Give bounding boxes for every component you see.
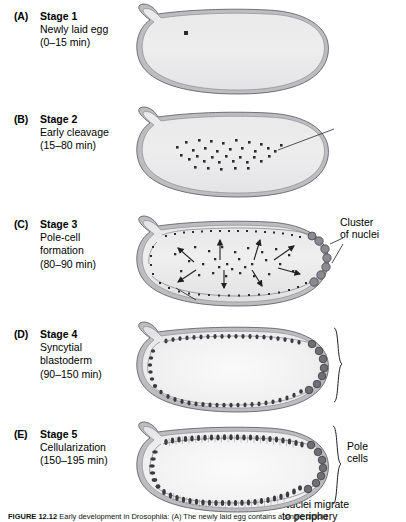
embryo-diagram-d [128, 318, 343, 418]
embryo-diagram-b [128, 103, 343, 208]
panel-letter-a: (A) [14, 10, 28, 22]
panel-stage-1: (A) Stage 1 Newly laid egg (0–15 min) [0, 0, 406, 103]
nucleus-single [184, 31, 188, 35]
brace-cellular [333, 426, 341, 504]
embryo-svg-stage-5 [128, 418, 343, 518]
embryo-svg-stage-2 [128, 103, 343, 208]
embryo-diagram-c [128, 208, 343, 318]
embryo-svg-stage-3 [128, 208, 343, 318]
panel-letter-c: (C) [14, 218, 28, 230]
figure-caption-label: FIGURE 12.12 [8, 512, 57, 521]
cytoplasm-b [142, 111, 324, 193]
panel-stage-5: (E) Stage 5 Cellularization (150–195 min… [0, 418, 406, 504]
figure-drosophila-development: (A) Stage 1 Newly laid egg (0–15 min) [0, 0, 406, 522]
figure-caption: FIGURE 12.12 Early development in Drosop… [8, 512, 400, 522]
panel-letter-b: (B) [14, 113, 28, 125]
panel-stage-3: (C) Stage 3 Pole-cell formation (80–90 m… [0, 208, 406, 318]
figure-caption-text: Early development in Drosophila: (A) The… [59, 512, 327, 521]
embryo-svg-stage-1 [128, 0, 343, 103]
panel-letter-d: (D) [14, 328, 28, 340]
panel-stage-2: (B) Stage 2 Early cleavage (15–80 min) [0, 103, 406, 208]
panel-letter-e: (E) [14, 428, 27, 440]
brace-syncytial [334, 328, 342, 402]
cytoplasm-a [142, 8, 324, 90]
panel-stage-4: (D) Stage 4 Syncytial blastoderm (90–150… [0, 318, 406, 418]
embryo-diagram-a [128, 0, 343, 103]
embryo-svg-stage-4 [128, 318, 343, 418]
embryo-diagram-e [128, 418, 343, 504]
